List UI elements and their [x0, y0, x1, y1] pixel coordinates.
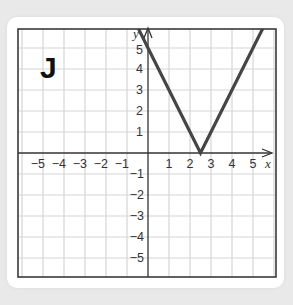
- y-tick-label: 3: [136, 83, 143, 97]
- y-tick-label: 5: [136, 43, 143, 57]
- y-tick-label: 1: [136, 125, 143, 139]
- x-tick-label: 5: [250, 157, 257, 171]
- y-tick-label: −5: [130, 251, 144, 265]
- x-tick-label: 1: [166, 157, 173, 171]
- x-tick-label: −4: [52, 157, 66, 171]
- y-tick-labels-positive: 1 2 3 4 5: [136, 43, 143, 139]
- y-tick-label: 4: [136, 62, 143, 76]
- panel-label: J: [40, 51, 57, 84]
- x-tick-label: 2: [187, 157, 194, 171]
- x-tick-label: 3: [208, 157, 215, 171]
- x-tick-label: −3: [73, 157, 87, 171]
- y-axis-label: y: [131, 26, 139, 41]
- y-tick-label: −2: [130, 188, 144, 202]
- x-tick-label: −5: [31, 157, 45, 171]
- y-tick-label: −1: [130, 167, 144, 181]
- x-tick-label: −1: [115, 157, 129, 171]
- x-tick-label: 4: [229, 157, 236, 171]
- x-tick-labels-positive: 1 2 3 4 5: [166, 157, 257, 171]
- x-tick-labels-negative: −5 −4 −3 −2 −1: [31, 157, 129, 171]
- x-tick-label: −2: [94, 157, 108, 171]
- x-axis-label: x: [264, 156, 271, 171]
- y-tick-labels-negative: −1 −2 −3 −4 −5: [130, 167, 144, 265]
- y-tick-label: 2: [136, 104, 143, 118]
- y-tick-label: −4: [130, 230, 144, 244]
- y-tick-label: −3: [130, 209, 144, 223]
- coordinate-plane: J y x 1 2 3 4 5 −5 −4 −3 −2 −1 1 2 3 4 5…: [0, 0, 293, 305]
